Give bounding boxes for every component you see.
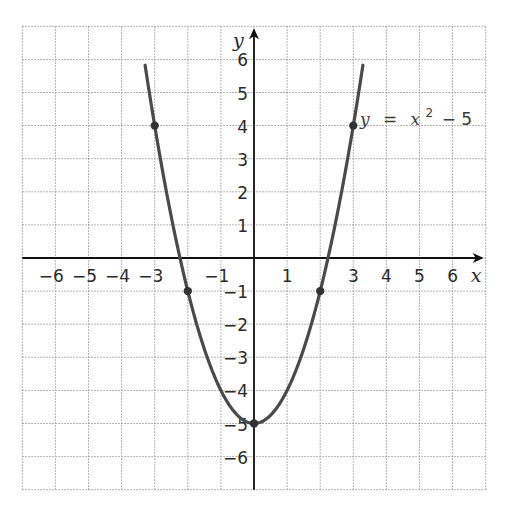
equation-var: x (411, 109, 421, 129)
x-tick-label: −6 (39, 266, 64, 286)
y-tick-labels: 654321−1−2−3−4−5−6 (223, 50, 248, 467)
y-tick-label: 4 (237, 117, 248, 137)
x-tick-label: 5 (414, 266, 425, 286)
y-tick-label: −6 (223, 448, 248, 468)
data-point (151, 121, 159, 129)
data-point (184, 287, 192, 295)
x-tick-label: −4 (105, 266, 130, 286)
x-tick-label: 1 (282, 266, 293, 286)
equation-lhs: y (359, 109, 370, 129)
y-tick-label: 5 (237, 84, 248, 104)
equation-equals: = (383, 109, 397, 129)
y-tick-label: −5 (223, 415, 248, 435)
y-tick-label: 3 (237, 150, 248, 170)
y-tick-label: 1 (237, 216, 248, 236)
x-tick-label: −5 (72, 266, 97, 286)
data-point (349, 121, 357, 129)
y-tick-label: −1 (223, 282, 248, 302)
x-tick-label: 4 (381, 266, 392, 286)
data-point (316, 287, 324, 295)
equation-exponent: 2 (426, 106, 434, 120)
x-tick-label: −3 (138, 266, 163, 286)
parabola-chart: −6−5−4−3−113456 654321−1−2−3−4−5−6 x y y… (0, 0, 505, 515)
y-tick-label: 2 (237, 183, 248, 203)
y-axis-label: y (232, 29, 244, 51)
y-tick-label: −3 (223, 348, 248, 368)
x-tick-labels: −6−5−4−3−113456 (39, 266, 458, 286)
y-tick-label: −2 (223, 315, 248, 335)
equation-rest: − 5 (442, 109, 472, 129)
data-point (250, 419, 258, 427)
x-axis-label: x (471, 264, 482, 286)
x-tick-label: 3 (348, 266, 359, 286)
equation-label: y = x 2 − 5 (359, 101, 472, 129)
x-tick-label: 6 (447, 266, 458, 286)
y-tick-label: 6 (237, 50, 248, 70)
